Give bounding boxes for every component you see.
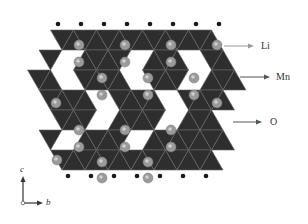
sphere-highlight (122, 59, 126, 63)
axis-indicator (21, 176, 44, 206)
oxygen-vertex (181, 174, 186, 179)
axis-label-c: c (20, 164, 24, 174)
sphere-highlight (122, 42, 126, 46)
axis-origin-icon (21, 201, 25, 205)
crystal-structure-diagram: Li Mn O c b (0, 0, 308, 224)
sphere-highlight (214, 42, 218, 46)
c-axis-arrow-icon (21, 176, 26, 182)
oxygen-vertex (112, 174, 117, 179)
b-axis-arrow-icon (37, 201, 43, 206)
oxygen-vertex (89, 174, 94, 179)
sphere-highlight (145, 75, 149, 79)
sphere-highlight (122, 127, 126, 131)
sphere-highlight (145, 92, 149, 96)
oxygen-vertex (158, 174, 163, 179)
mn-octahedron-face (39, 130, 62, 150)
sphere-highlight (168, 144, 172, 148)
o-arrow-head (256, 120, 262, 125)
sphere-highlight (76, 144, 80, 148)
oxygen-vertex (204, 174, 209, 179)
oxygen-vertex (148, 22, 153, 27)
structure-canvas (0, 0, 308, 224)
sphere-highlight (145, 175, 149, 179)
oxygen-vertex (102, 22, 107, 27)
oxygen-vertex (56, 22, 61, 27)
legend-label-o: O (270, 116, 277, 127)
sphere-highlight (191, 75, 195, 79)
mn-arrow-head (264, 75, 270, 80)
sphere-highlight (214, 100, 218, 104)
sphere-highlight (122, 144, 126, 148)
oxygen-vertex (194, 22, 199, 27)
oxygen-vertex (135, 174, 140, 179)
sphere-highlight (99, 175, 103, 179)
sphere-highlight (76, 59, 80, 63)
oxygen-vertex (79, 22, 84, 27)
sphere-highlight (145, 159, 149, 163)
legend-label-mn: Mn (276, 71, 290, 82)
legend-label-li: Li (261, 40, 270, 51)
sphere-highlight (53, 100, 57, 104)
oxygen-vertex (217, 22, 222, 27)
sphere-highlight (76, 42, 80, 46)
sphere-highlight (76, 127, 80, 131)
sphere-highlight (168, 59, 172, 63)
sphere-highlight (168, 42, 172, 46)
oxygen-vertex (125, 22, 130, 27)
sphere-highlight (99, 92, 103, 96)
sphere-highlight (99, 159, 103, 163)
sphere-highlight (168, 127, 172, 131)
mn-octahedron-face (39, 50, 62, 70)
oxygen-vertex (171, 22, 176, 27)
oxygen-vertex (66, 174, 71, 179)
sphere-highlight (99, 75, 103, 79)
li-arrow-head (248, 44, 254, 49)
axis-label-b: b (46, 197, 51, 207)
sphere-highlight (191, 92, 195, 96)
sphere-highlight (54, 157, 58, 161)
